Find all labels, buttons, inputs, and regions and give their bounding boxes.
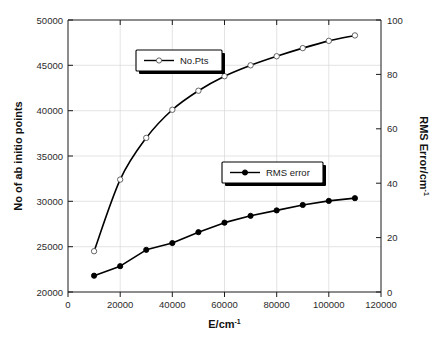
data-point [170, 107, 175, 112]
x-tick-label: 0 [65, 299, 70, 310]
left-tick-label: 20000 [37, 287, 63, 298]
left-axis-ticklabels: 20000 25000 30000 35000 40000 45000 5000… [37, 15, 63, 298]
x-tick-label: 80000 [263, 299, 289, 310]
right-tick-label: 20 [387, 232, 398, 243]
left-axis-title: No of ab initio points [12, 101, 24, 210]
data-point [352, 33, 357, 38]
chart-figure: 20000 25000 30000 35000 40000 45000 5000… [0, 0, 432, 338]
data-point [300, 45, 305, 50]
data-point [300, 202, 305, 207]
legend-no-pts[interactable]: No.Pts [136, 50, 225, 74]
right-tick-label: 60 [387, 123, 398, 134]
left-axis-ticks [68, 20, 73, 292]
left-tick-label: 45000 [37, 60, 63, 71]
left-tick-label: 35000 [37, 151, 63, 162]
legend-label-rms-error: RMS error [266, 167, 310, 178]
x-tick-label: 40000 [159, 299, 185, 310]
data-point [248, 63, 253, 68]
right-tick-label: 40 [387, 178, 398, 189]
legend-label-no-pts: No.Pts [180, 55, 209, 66]
x-axis-title: E/cm-1 [208, 318, 241, 330]
data-point [91, 249, 96, 254]
x-tick-label: 120000 [365, 299, 397, 310]
right-tick-label: 0 [387, 287, 392, 298]
x-axis-ticks [68, 292, 381, 297]
data-point [326, 198, 331, 203]
left-tick-label: 30000 [37, 196, 63, 207]
right-axis-title: RMS Error/cm-1 [418, 116, 430, 196]
x-axis-top-ticks [120, 20, 329, 25]
x-axis-ticklabels: 0 20000 40000 60000 80000 100000 120000 [65, 299, 397, 310]
right-tick-label: 100 [387, 15, 403, 26]
data-point [326, 38, 331, 43]
x-tick-label: 60000 [211, 299, 237, 310]
right-axis-ticklabels: 0 20 40 60 80 100 [387, 15, 403, 298]
left-tick-label: 40000 [37, 105, 63, 116]
data-point [144, 135, 149, 140]
x-tick-label: 20000 [107, 299, 133, 310]
data-point [118, 264, 123, 269]
data-point [91, 273, 96, 278]
x-tick-label: 100000 [313, 299, 345, 310]
legend-rms-error[interactable]: RMS error [222, 162, 326, 186]
data-point [170, 240, 175, 245]
data-point [196, 88, 201, 93]
data-point [352, 196, 357, 201]
data-point [274, 54, 279, 59]
chart-canvas: 20000 25000 30000 35000 40000 45000 5000… [0, 0, 432, 338]
data-point [196, 230, 201, 235]
left-tick-label: 25000 [37, 241, 63, 252]
data-point [222, 74, 227, 79]
data-point [274, 208, 279, 213]
right-tick-label: 80 [387, 69, 398, 80]
data-point [222, 220, 227, 225]
left-tick-label: 50000 [37, 15, 63, 26]
data-point [144, 247, 149, 252]
data-point [248, 213, 253, 218]
data-point [117, 177, 122, 182]
